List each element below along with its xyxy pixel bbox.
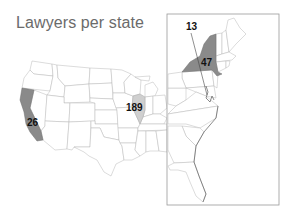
label-illinois: 189 bbox=[126, 102, 143, 113]
us-map: 26 189 47 13 bbox=[0, 0, 293, 213]
state-arizona bbox=[41, 121, 69, 150]
state-ohio bbox=[153, 95, 167, 114]
east-coast-inset bbox=[167, 14, 279, 205]
state-new-mexico bbox=[67, 121, 91, 150]
label-new-york: 47 bbox=[201, 57, 213, 68]
state-wyoming bbox=[64, 84, 90, 103]
label-california: 26 bbox=[27, 117, 39, 128]
label-delaware-maryland: 13 bbox=[186, 21, 198, 32]
state-tennessee bbox=[138, 124, 167, 131]
state-colorado bbox=[69, 103, 95, 122]
state-arkansas bbox=[118, 128, 138, 143]
state-borders bbox=[20, 61, 167, 176]
state-kansas bbox=[95, 110, 118, 124]
state-south-dakota bbox=[89, 83, 113, 99]
state-north-dakota bbox=[89, 68, 112, 84]
state-pennsylvania bbox=[182, 70, 214, 88]
state-vermont bbox=[216, 33, 222, 56]
state-montana bbox=[57, 65, 90, 86]
